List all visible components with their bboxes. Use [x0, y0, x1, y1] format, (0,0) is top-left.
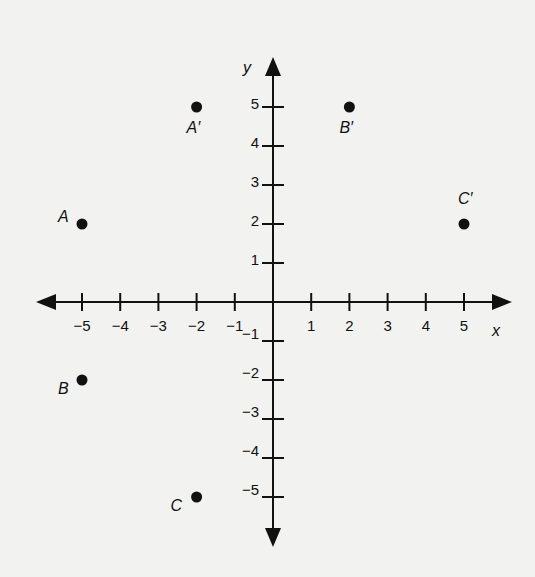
y-axis-label: y: [242, 59, 252, 76]
x-tick-label: 3: [383, 317, 391, 334]
y-tick-label: 3: [251, 173, 259, 190]
data-point: [191, 492, 202, 503]
y-tick-label: −2: [242, 364, 259, 381]
y-tick-label: −5: [242, 481, 259, 498]
data-point: [77, 375, 88, 386]
point-label: A: [57, 208, 69, 225]
x-ticks: −5−4−3−2−112345: [73, 293, 468, 334]
y-axis-up-arrow-icon: [265, 57, 281, 76]
y-ticks: 54321−1−2−3−4−5: [242, 95, 284, 498]
x-axis-right-arrow-icon: [492, 294, 512, 310]
x-tick-label: 2: [345, 317, 353, 334]
y-tick-label: −3: [242, 403, 259, 420]
point-label: B: [58, 380, 69, 397]
data-point: [191, 102, 202, 113]
y-tick-label: −4: [242, 442, 259, 459]
x-axis-label: x: [491, 322, 501, 339]
point-label: C′: [458, 190, 474, 207]
y-tick-label: 4: [251, 134, 259, 151]
data-point: [459, 219, 470, 230]
y-tick-label: 5: [251, 95, 259, 112]
data-point: [77, 219, 88, 230]
y-tick-label: 1: [251, 251, 259, 268]
x-tick-label: −1: [226, 317, 243, 334]
point-label: C: [171, 497, 183, 514]
y-axis-down-arrow-icon: [265, 528, 281, 547]
point-label: A′: [186, 119, 202, 136]
x-tick-label: 1: [307, 317, 315, 334]
point-label: B′: [339, 119, 354, 136]
x-tick-label: −4: [112, 317, 129, 334]
y-tick-label: −1: [242, 325, 259, 342]
coordinate-plane: −5−4−3−2−112345 54321−1−2−3−4−5 x y ABCA…: [0, 0, 535, 577]
data-point: [344, 102, 355, 113]
y-tick-label: 2: [251, 212, 259, 229]
axes: [36, 57, 512, 547]
x-tick-label: −5: [73, 317, 90, 334]
x-tick-label: 5: [460, 317, 468, 334]
x-tick-label: −2: [188, 317, 205, 334]
x-tick-label: −3: [150, 317, 167, 334]
x-tick-label: 4: [422, 317, 430, 334]
x-axis-left-arrow-icon: [36, 294, 56, 310]
